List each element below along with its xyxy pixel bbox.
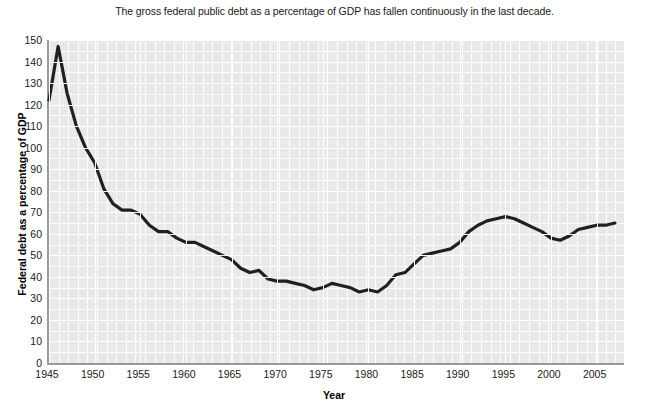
y-tick-label: 20 [2, 315, 42, 325]
gridline-horizontal [49, 212, 624, 213]
y-tick-label: 100 [2, 143, 42, 153]
gridline-horizontal [49, 298, 624, 299]
x-tick-label: 2000 [524, 368, 574, 380]
chart-figure: The gross federal public debt as a perce… [0, 0, 669, 413]
y-tick-label: 80 [2, 186, 42, 196]
debt-series-line [49, 40, 624, 363]
gridline-vertical [551, 40, 552, 363]
x-tick-label: 2005 [570, 368, 620, 380]
y-tick-label: 70 [2, 207, 42, 217]
x-tick-label: 1965 [205, 368, 255, 380]
gridline-horizontal [49, 320, 624, 321]
chart-title: The gross federal public debt as a perce… [0, 5, 669, 17]
gridline-vertical [414, 40, 415, 363]
gridline-horizontal [49, 341, 624, 342]
gridline-vertical [232, 40, 233, 363]
gridline-vertical [277, 40, 278, 363]
x-tick-label: 1985 [387, 368, 437, 380]
gridline-horizontal [49, 169, 624, 170]
y-tick-label: 30 [2, 293, 42, 303]
y-tick-label: 10 [2, 336, 42, 346]
gridline-vertical [49, 40, 50, 363]
gridline-vertical [140, 40, 141, 363]
y-tick-label: 90 [2, 164, 42, 174]
x-tick-label: 1990 [433, 368, 483, 380]
gridline-vertical [505, 40, 506, 363]
y-tick-label: 150 [2, 35, 42, 45]
x-axis-title: Year [44, 389, 624, 401]
x-tick-label: 1960 [159, 368, 209, 380]
x-tick-label: 1995 [478, 368, 528, 380]
y-tick-label: 0 [2, 358, 42, 368]
gridline-vertical [323, 40, 324, 363]
y-axis-ticks: 0102030405060708090100110120130140150 [0, 40, 42, 363]
gridline-horizontal [49, 83, 624, 84]
y-tick-label: 110 [2, 121, 42, 131]
gridline-horizontal [49, 191, 624, 192]
x-tick-label: 1945 [22, 368, 72, 380]
x-tick-label: 1970 [250, 368, 300, 380]
gridline-horizontal [49, 62, 624, 63]
gridline-horizontal [49, 126, 624, 127]
x-tick-label: 1980 [341, 368, 391, 380]
gridline-horizontal [49, 148, 624, 149]
x-tick-label: 1955 [113, 368, 163, 380]
gridline-vertical [95, 40, 96, 363]
gridline-horizontal [49, 277, 624, 278]
x-tick-label: 1950 [68, 368, 118, 380]
gridline-horizontal [49, 105, 624, 106]
y-tick-label: 50 [2, 250, 42, 260]
plot-area [47, 40, 624, 365]
y-tick-label: 120 [2, 100, 42, 110]
gridline-horizontal [49, 234, 624, 235]
y-tick-label: 130 [2, 78, 42, 88]
gridline-vertical [597, 40, 598, 363]
y-tick-label: 140 [2, 57, 42, 67]
gridline-horizontal [49, 40, 624, 41]
x-tick-label: 1975 [296, 368, 346, 380]
gridline-vertical [460, 40, 461, 363]
gridline-vertical [368, 40, 369, 363]
gridline-vertical [186, 40, 187, 363]
gridline-horizontal [49, 255, 624, 256]
y-tick-label: 60 [2, 229, 42, 239]
y-tick-label: 40 [2, 272, 42, 282]
x-axis-ticks: 1945195019551960196519701975198019851990… [47, 368, 622, 384]
